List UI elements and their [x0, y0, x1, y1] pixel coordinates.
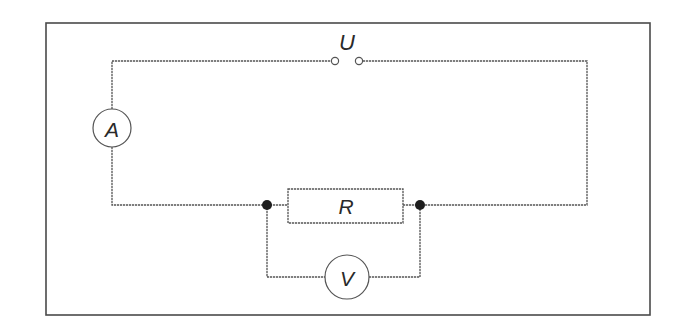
circuit-diagram: U A R V — [0, 0, 688, 328]
ammeter: A — [93, 109, 131, 147]
wire-top-right — [363, 61, 587, 205]
junction-right-icon — [415, 200, 425, 210]
ammeter-label: A — [103, 118, 119, 141]
voltmeter-label: V — [340, 267, 356, 290]
source-terminal-right — [355, 57, 362, 64]
resistor-label: R — [338, 195, 353, 218]
resistor: R — [288, 189, 403, 223]
junction-left-icon — [262, 200, 272, 210]
source-label: U — [339, 30, 355, 55]
source-terminal-left — [331, 57, 338, 64]
wire-top-left — [112, 61, 331, 109]
voltmeter: V — [325, 255, 369, 299]
wire-left-bottom — [112, 147, 267, 205]
